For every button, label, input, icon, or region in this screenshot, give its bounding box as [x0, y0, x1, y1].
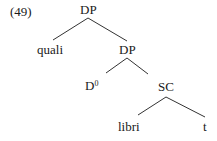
- edge-dp-d0: [106, 58, 127, 73]
- edge-dp-quali: [53, 18, 88, 40]
- node-d0-label: D: [85, 78, 94, 93]
- tree-edges: [0, 0, 217, 141]
- node-t: t: [203, 120, 207, 133]
- node-dp: DP: [119, 43, 136, 56]
- node-libri: libri: [118, 120, 140, 133]
- node-quali: quali: [37, 43, 63, 56]
- edge-sc-t: [166, 97, 205, 117]
- node-sc: SC: [158, 80, 174, 93]
- edge-sc-libri: [138, 97, 166, 115]
- edge-dp-dp: [88, 18, 127, 41]
- node-root-dp: DP: [80, 3, 97, 16]
- example-number: (49): [10, 5, 32, 18]
- node-d0-superscript: 0: [94, 79, 98, 88]
- edge-dp-sc: [127, 58, 148, 74]
- node-d0: D0: [85, 79, 98, 92]
